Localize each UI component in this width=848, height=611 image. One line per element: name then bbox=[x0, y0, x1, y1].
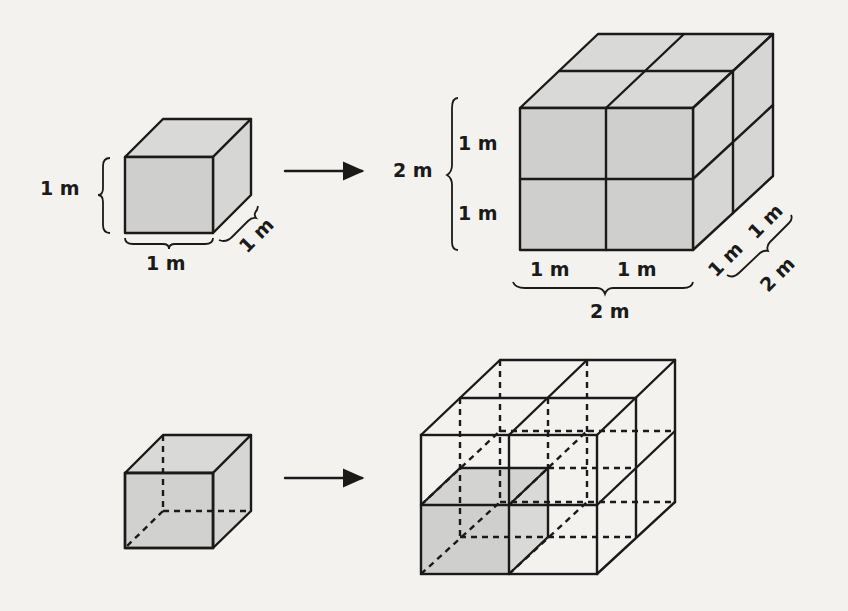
total-depth-label: 2 m bbox=[755, 252, 799, 296]
scaled-cube-solid bbox=[520, 34, 773, 250]
total-width-label: 2 m bbox=[590, 300, 630, 322]
width-part-label-1: 1 m bbox=[530, 258, 570, 280]
unit-depth-label: 1 m bbox=[234, 213, 278, 257]
width-part-label-2: 1 m bbox=[617, 258, 657, 280]
unit-cube-hidden-edges bbox=[125, 435, 251, 548]
height-part-label-1: 1 m bbox=[458, 132, 498, 154]
total-width-brace bbox=[513, 282, 693, 294]
depth-part-label-1: 1 m bbox=[703, 237, 747, 281]
width-brace bbox=[125, 238, 213, 249]
depth-part-label-2: 1 m bbox=[743, 199, 787, 243]
height-brace bbox=[98, 158, 110, 233]
unit-cube-solid bbox=[125, 119, 251, 233]
cube-scaling-diagram: 1 m 1 m 1 m 2 m 1 m 1 m 1 m 1 m 2 m 1 m … bbox=[0, 0, 848, 611]
unit-width-label: 1 m bbox=[146, 252, 186, 274]
total-height-brace bbox=[447, 98, 458, 250]
height-part-label-2: 1 m bbox=[458, 202, 498, 224]
unit-height-label: 1 m bbox=[40, 177, 80, 199]
scaled-cube-wireframe bbox=[421, 360, 675, 574]
total-height-label: 2 m bbox=[393, 159, 433, 181]
